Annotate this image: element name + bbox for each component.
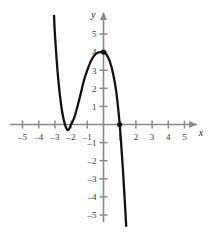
y-axis-tick-label: 1 [92, 102, 97, 112]
x-intercept-point [117, 122, 122, 127]
y-axis-tick-label: 5 [92, 29, 97, 39]
x-axis-tick-label: –2 [66, 132, 76, 142]
coordinate-plane: –5–4–3–2–112345–5–4–3–2–112345yx [0, 0, 213, 234]
y-axis-tick-label: –4 [87, 192, 98, 202]
y-axis-tick-label: 2 [92, 84, 97, 94]
x-axis-tick-label: 5 [182, 132, 187, 142]
y-axis-tick-label: –1 [87, 138, 97, 148]
y-axis-tick-label: –5 [87, 210, 98, 220]
x-axis-tick-label: –4 [33, 132, 44, 142]
y-axis-name-label: y [90, 9, 96, 20]
y-axis-tick-label: 3 [92, 66, 97, 76]
x-axis-arrow-icon [189, 121, 197, 128]
x-axis-tick-label: 2 [134, 132, 139, 142]
y-axis-tick-label: –2 [87, 156, 97, 166]
graph-figure: –5–4–3–2–112345–5–4–3–2–112345yx [0, 0, 213, 234]
x-axis-tick-label: 3 [150, 132, 155, 142]
x-axis-tick-label: 4 [166, 132, 171, 142]
x-axis-name-label: x [198, 127, 204, 138]
y-axis-arrow-icon [100, 12, 107, 20]
x-axis-tick-label: –3 [49, 132, 60, 142]
y-axis-tick-label: –3 [87, 174, 98, 184]
x-axis-tick-label: –5 [17, 132, 28, 142]
local-maximum-point [101, 50, 106, 55]
